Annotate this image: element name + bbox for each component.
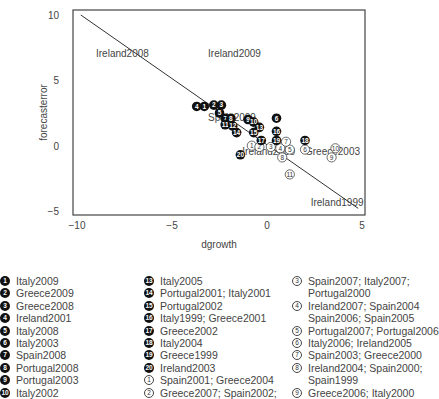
legend-entry: 1Italy2009	[0, 275, 78, 287]
filled-marker-icon: 20	[144, 363, 154, 373]
legend-label: Spain2008	[16, 349, 66, 361]
filled-marker-icon: 17	[144, 326, 154, 336]
legend-entry: 8Portugal2008	[0, 362, 78, 374]
x-tick-label: −10	[69, 220, 86, 231]
legend-entry: 7Spain2008	[0, 349, 78, 361]
legend-label: Italy2005	[160, 275, 203, 287]
legend-entry: 20Ireland2003	[144, 362, 277, 374]
filled-marker-number: 19	[273, 137, 281, 144]
filled-marker-icon: 18	[144, 338, 154, 348]
filled-marker-number: 5	[218, 109, 222, 116]
open-marker-number: 6	[303, 146, 307, 153]
legend-entry: 19Greece1999	[144, 349, 277, 361]
scatter-plot: −10−505−50510dgrowthforecasterrorIreland…	[0, 0, 437, 270]
legend-entry: 3Greece2008	[0, 300, 78, 312]
legend-column-2: 13Italy200514Portugal2001; Italy200115Po…	[144, 275, 277, 399]
open-marker-number: 8	[280, 154, 284, 161]
point-label: Ireland1999	[311, 197, 364, 208]
legend-entry: 15Portugal2002	[144, 300, 277, 312]
legend-entry: 3Spain2007; Italy2007; Portugal2000	[292, 275, 439, 300]
filled-marker-icon: 8	[0, 363, 10, 373]
open-marker-number: 3	[269, 143, 273, 150]
open-marker-icon: 4	[292, 301, 302, 311]
filled-marker-icon: 15	[144, 301, 154, 311]
legend-column-3: 3Spain2007; Italy2007; Portugal20004Irel…	[292, 275, 439, 399]
legend-entry: 16Italy1999; Greece2001	[144, 312, 277, 324]
open-marker-number: 1	[250, 142, 254, 149]
legend-label: Greece1999	[160, 349, 218, 361]
filled-marker-icon: 10	[0, 388, 10, 398]
legend-label: Spain2001; Greece2004	[160, 374, 274, 386]
legend-entry: 5Italy2008	[0, 325, 78, 337]
open-marker-icon: 8	[292, 363, 302, 373]
legend-label: Italy2002	[16, 387, 59, 399]
filled-marker-number: 14	[233, 129, 241, 136]
filled-marker-icon: 14	[144, 288, 154, 298]
legend-entry: 17Greece2002	[144, 325, 277, 337]
open-marker-icon: 6	[292, 338, 302, 348]
legend-label: Ireland2003	[160, 362, 215, 374]
x-axis-label: dgrowth	[201, 239, 237, 250]
filled-marker-number: 8	[229, 115, 233, 122]
legend-entry: 14Portugal2001; Italy2001	[144, 287, 277, 299]
filled-marker-icon: 6	[0, 338, 10, 348]
filled-marker-icon: 7	[0, 350, 10, 360]
legend-label: Italy2009	[16, 275, 59, 287]
filled-marker-number: 3	[220, 101, 224, 108]
legend-label: Italy2003	[16, 337, 59, 349]
legend-entry: 4Ireland2007; Spain2004 Spain2006; Spain…	[292, 300, 439, 325]
point-label: Ireland2009	[208, 48, 261, 59]
filled-marker-icon: 16	[144, 313, 154, 323]
open-marker-icon: 2	[144, 388, 154, 398]
legend-entry: 13Italy2005	[144, 275, 277, 287]
x-tick-label: −5	[166, 220, 178, 231]
filled-marker-number: 18	[301, 137, 309, 144]
open-marker-icon: 3	[292, 276, 302, 286]
filled-marker-icon: 2	[0, 288, 10, 298]
legend-label: Greece2006; Italy2000	[308, 387, 414, 399]
open-marker-icon: 7	[292, 350, 302, 360]
legend-entry: 5Portugal2007; Portugal2006	[292, 325, 439, 337]
filled-marker-number: 17	[258, 137, 266, 144]
legend-entry: 7Spain2003; Greece2000	[292, 349, 439, 361]
open-marker-number: 9	[330, 154, 334, 161]
open-marker-icon: 9	[292, 388, 302, 398]
filled-marker-number: 2	[212, 101, 216, 108]
legend-label: Portugal2002	[160, 300, 222, 312]
filled-marker-number: 1	[202, 103, 206, 110]
legend-label: Ireland2001	[16, 312, 71, 324]
legend-label: Italy2008	[16, 325, 59, 337]
filled-marker-icon: 3	[0, 301, 10, 311]
legend-entry: 6Italy2006; Ireland2005	[292, 337, 439, 349]
open-marker-number: 4	[278, 145, 282, 152]
legend-label: Italy2004	[160, 337, 203, 349]
filled-marker-icon: 9	[0, 375, 10, 385]
legend-entry: 9Portugal2003	[0, 374, 78, 386]
filled-marker-number: 16	[273, 128, 281, 135]
y-axis-label: forecasterror	[38, 83, 49, 140]
legend-label: Greece2009	[16, 287, 74, 299]
legend-label: Portugal2007; Portugal2006	[308, 325, 439, 337]
legend-label: Spain2003; Greece2000	[308, 349, 422, 361]
legend-label: Portugal2001; Italy2001	[160, 287, 271, 299]
legend-entry: 1Spain2001; Greece2004	[144, 374, 277, 386]
legend-label: Spain2007; Italy2007; Portugal2000	[308, 275, 410, 300]
filled-marker-icon: 1	[0, 276, 10, 286]
legend-label: Ireland2007; Spain2004 Spain2006; Spain2…	[308, 300, 420, 325]
filled-marker-icon: 4	[0, 313, 10, 323]
open-marker-number: 10	[332, 145, 340, 152]
y-tick-label: 0	[53, 141, 59, 152]
y-tick-label: 10	[48, 10, 60, 21]
open-marker-icon: 5	[292, 326, 302, 336]
x-tick-label: 5	[359, 220, 365, 231]
legend-entry: 2Greece2009	[0, 287, 78, 299]
legend-label: Greece2008	[16, 300, 74, 312]
y-tick-label: 5	[53, 75, 59, 86]
filled-marker-icon: 5	[0, 326, 10, 336]
filled-marker-number: 20	[237, 151, 245, 158]
legend-entry: 9Greece2006; Italy2000	[292, 387, 439, 399]
legend-label: Ireland2004; Spain2000; Spain1999	[308, 362, 422, 387]
legend-label: Greece2007; Spain2002;	[160, 387, 277, 399]
legend-entry: 18Italy2004	[144, 337, 277, 349]
legend-entry: 4Ireland2001	[0, 312, 78, 324]
